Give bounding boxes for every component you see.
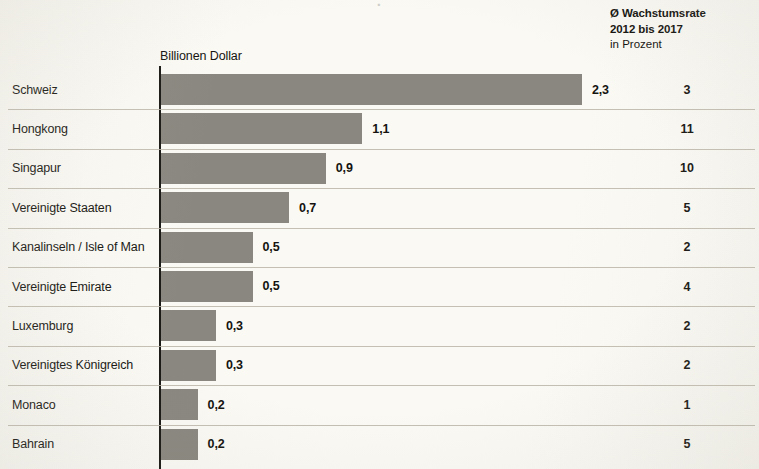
bar (161, 192, 289, 223)
growth-header-line-1: Ø Wachstumsrate (610, 6, 759, 22)
chart-row-vereinigte-staaten: Vereinigte Staaten0,75 (0, 188, 759, 227)
bar-group: 2,3 (161, 74, 609, 105)
growth-rate-value: 2 (640, 319, 734, 333)
bar-group: 1,1 (161, 113, 389, 144)
bar (161, 74, 582, 105)
chart-row-monaco: Monaco0,21 (0, 385, 759, 424)
chart-row-vereinigtes-koenigreich: Vereinigtes Königreich0,32 (0, 346, 759, 385)
category-label: Kanalinseln / Isle of Man (12, 240, 144, 254)
bar-value-label: 0,3 (226, 319, 243, 333)
category-label: Vereinigtes Königreich (12, 358, 133, 372)
bar-value-label: 1,1 (372, 122, 389, 136)
row-separator (8, 346, 755, 347)
bar-group: 0,5 (161, 232, 280, 263)
growth-rate-value: 11 (640, 122, 734, 136)
bar-group: 0,7 (161, 192, 316, 223)
row-separator (8, 149, 755, 150)
bar (161, 310, 216, 341)
growth-rate-value: 5 (640, 437, 734, 451)
chart-row-singapur: Singapur0,910 (0, 149, 759, 188)
bar-value-label: 0,2 (208, 398, 225, 412)
row-separator (8, 385, 755, 386)
bar (161, 389, 198, 420)
bar-group: 0,3 (161, 310, 243, 341)
bar-value-label: 0,7 (299, 201, 316, 215)
bar-value-label: 0,9 (336, 161, 353, 175)
x-axis-unit-label: Billionen Dollar (160, 49, 242, 63)
bar-group: 0,9 (161, 153, 353, 184)
bar (161, 153, 326, 184)
growth-header-line-3: in Prozent (610, 37, 759, 53)
bar-value-label: 2,3 (592, 83, 609, 97)
row-separator (8, 425, 755, 426)
growth-rate-value: 2 (640, 240, 734, 254)
chart-row-kanalinseln-isle-of-man: Kanalinseln / Isle of Man0,52 (0, 228, 759, 267)
chart-row-schweiz: Schweiz2,33 (0, 70, 759, 109)
category-label: Schweiz (12, 83, 58, 97)
chart-row-bahrain: Bahrain0,25 (0, 425, 759, 464)
row-separator (8, 267, 755, 268)
growth-rate-value: 5 (640, 201, 734, 215)
bar (161, 232, 253, 263)
category-label: Monaco (12, 398, 56, 412)
category-label: Vereinigte Staaten (12, 201, 111, 215)
bar-group: 0,2 (161, 389, 225, 420)
bar-group: 0,3 (161, 350, 243, 381)
row-separator (8, 188, 755, 189)
bar (161, 350, 216, 381)
growth-rate-column-header: Ø Wachstumsrate 2012 bis 2017 in Prozent (610, 6, 759, 53)
row-separator (8, 228, 755, 229)
bar-value-label: 0,2 (208, 437, 225, 451)
bar-group: 0,5 (161, 271, 280, 302)
category-label: Luxemburg (12, 319, 73, 333)
category-label: Singapur (12, 161, 61, 175)
bar (161, 271, 253, 302)
row-separator (8, 306, 755, 307)
bar-value-label: 0,3 (226, 358, 243, 372)
growth-rate-value: 4 (640, 280, 734, 294)
bar-value-label: 0,5 (263, 240, 280, 254)
growth-header-line-2: 2012 bis 2017 (610, 22, 759, 38)
chart-rows: Schweiz2,33Hongkong1,111Singapur0,910Ver… (0, 70, 759, 464)
chart-page: · Ø Wachstumsrate 2012 bis 2017 in Proze… (0, 0, 759, 469)
growth-rate-value: 2 (640, 358, 734, 372)
row-separator (8, 109, 755, 110)
bar (161, 113, 362, 144)
bar (161, 429, 198, 460)
bar-group: 0,2 (161, 429, 225, 460)
category-label: Hongkong (12, 122, 68, 136)
growth-rate-value: 3 (640, 83, 734, 97)
chart-row-vereinigte-emirate: Vereinigte Emirate0,54 (0, 267, 759, 306)
growth-rate-value: 10 (640, 161, 734, 175)
bar-value-label: 0,5 (263, 279, 280, 293)
growth-rate-value: 1 (640, 398, 734, 412)
category-label: Bahrain (12, 437, 54, 451)
chart-row-luxemburg: Luxemburg0,32 (0, 306, 759, 345)
category-label: Vereinigte Emirate (12, 280, 111, 294)
chart-row-hongkong: Hongkong1,111 (0, 109, 759, 148)
